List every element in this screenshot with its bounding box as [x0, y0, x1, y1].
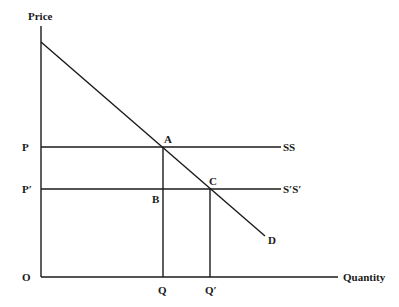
- point-label-a: A: [164, 133, 172, 145]
- supply-label-ss: SS: [283, 141, 295, 153]
- quantity-label-q: Q: [158, 284, 167, 296]
- origin-label: O: [22, 271, 31, 283]
- demand-curve: [41, 42, 265, 236]
- point-label-c: C: [209, 175, 217, 187]
- x-axis-label: Quantity: [343, 271, 386, 283]
- price-label-p-prime: P′: [22, 183, 32, 195]
- price-label-p: P: [22, 141, 29, 153]
- y-axis-label: Price: [28, 10, 53, 22]
- supply-label-s-prime-s-prime: S′S′: [283, 183, 301, 195]
- point-label-b: B: [152, 193, 160, 205]
- demand-label-d: D: [268, 234, 276, 246]
- supply-demand-diagram: Price Quantity O P P′ Q Q′ SS S′S′ D A B…: [0, 0, 399, 307]
- quantity-label-q-prime: Q′: [205, 284, 217, 296]
